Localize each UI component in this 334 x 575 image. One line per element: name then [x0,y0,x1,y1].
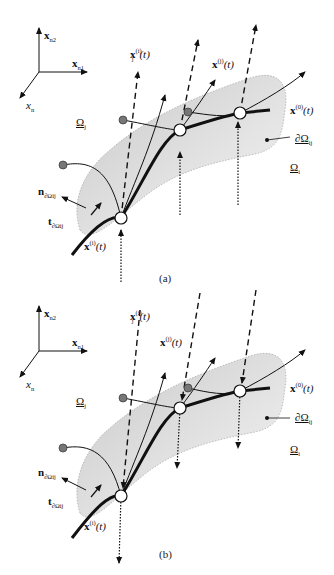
label-omega-i: Ωi [290,444,300,458]
label-tangent: t∂Ωij [48,216,63,230]
label-omega-j: Ωj [76,396,86,410]
label-x-i: x(i)(t) [84,520,106,532]
label-xj-i: x(i)j(t) [130,48,150,63]
label-boundary: ∂Ωij [295,412,312,426]
axis-label-xn1: xn1 [72,337,84,351]
label-x-j: x(j)(t) [160,336,182,348]
caption-b: (b) [159,548,172,560]
label-omega-i: Ωi [290,162,300,176]
panel-a: xn2 xn1 xn x(i)j(t) x(j)(t) x(0)(t) Ωj ∂… [0,0,334,300]
axis-label-xn: xn [26,379,34,393]
label-normal: n∂Ωij [38,186,56,200]
label-x-0: x(0)(t) [290,382,313,394]
label-normal: n∂Ωij [38,467,56,481]
axis-label-xn: xn [26,100,34,114]
label-tangent: t∂Ωij [48,496,63,510]
caption-a: (a) [159,272,171,284]
diagram-a-canvas [0,0,334,300]
axis-label-xn2: xn2 [44,308,56,322]
axis-label-xn2: xn2 [44,30,56,44]
diagram-b-canvas [0,288,334,575]
label-x-i: x(i)(t) [84,240,106,252]
region-omega-j [77,75,286,234]
label-x-j: x(j)(t) [212,58,234,70]
axis-label-xn1: xn1 [72,58,84,72]
label-boundary: ∂Ωij [295,133,312,147]
label-xj-i: x(i)j(t) [130,310,150,325]
label-x-0: x(0)(t) [290,104,313,116]
panel-b: xn2 xn1 xn x(i)j(t) x(j)(t) x(0)(t) Ωj ∂… [0,288,334,575]
label-omega-j: Ωj [76,117,86,131]
